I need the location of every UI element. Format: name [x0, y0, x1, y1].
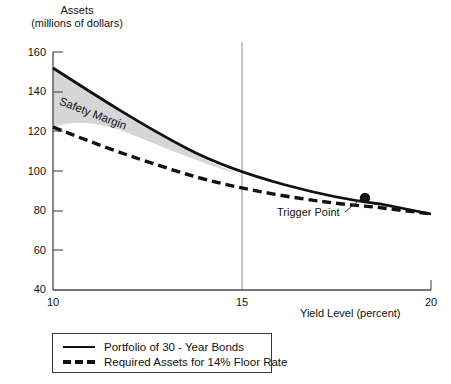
legend-swatch-solid-icon: [63, 341, 95, 353]
plot-area: [0, 0, 451, 384]
legend-label-portfolio: Portfolio of 30 - Year Bonds: [104, 341, 244, 353]
legend-item-required-assets: Required Assets for 14% Floor Rate: [63, 354, 287, 369]
chart-legend: Portfolio of 30 - Year Bonds Required As…: [52, 333, 272, 373]
trigger-point-marker: [360, 193, 370, 203]
chart-figure: Assets (millions of dollars) Yield Level…: [0, 0, 451, 384]
legend-item-portfolio: Portfolio of 30 - Year Bonds: [63, 339, 244, 354]
legend-swatch-dashed-icon: [63, 356, 95, 368]
legend-label-required-assets: Required Assets for 14% Floor Rate: [104, 356, 287, 368]
trigger-point-label: Trigger Point: [277, 206, 340, 218]
